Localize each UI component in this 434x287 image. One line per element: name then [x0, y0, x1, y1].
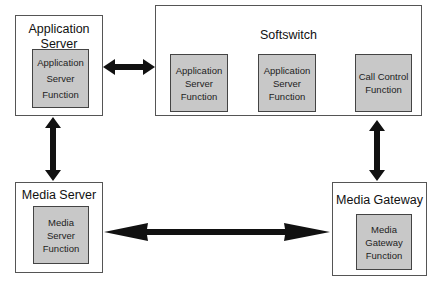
arrow-appserver-mediaserver: [45, 117, 61, 181]
arrow-appserver-softswitch: [103, 59, 155, 75]
arrow-softswitch-mediagateway: [369, 120, 385, 181]
arrow-mediaserver-mediagateway: [104, 223, 330, 241]
connector-arrows: [0, 0, 434, 287]
